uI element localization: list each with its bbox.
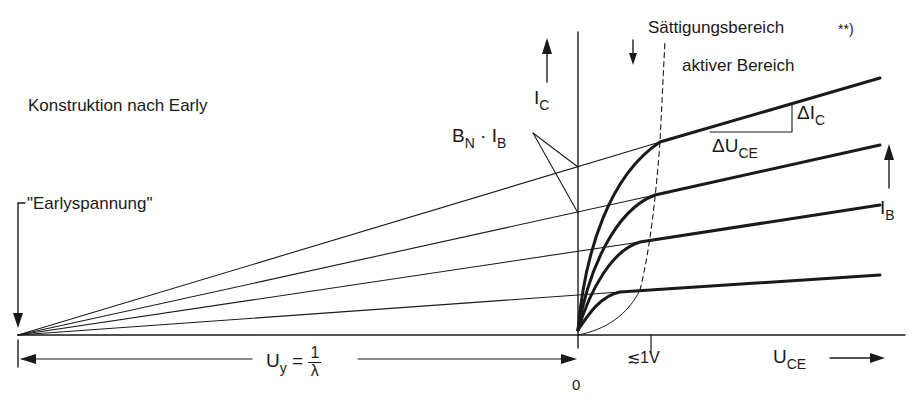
characteristic-curve-2 [578, 145, 880, 330]
ic-arrow-head [542, 38, 552, 54]
saturation-region-label: Sättigungsbereich [648, 19, 784, 36]
bn-label: B [452, 125, 465, 146]
early-line-1 [18, 142, 660, 335]
ic-axis-label-sub: C [539, 97, 549, 113]
bn-sub: N [465, 135, 475, 151]
uce-arrow-head [870, 353, 885, 363]
delta-uce-sub: CE [738, 145, 757, 161]
ib-parameter-label: IB [880, 198, 895, 217]
uy-equals: = [287, 350, 309, 371]
delta-uce-main: ΔU [712, 135, 738, 156]
uy-numerator: 1 [308, 345, 321, 363]
early-line-2 [18, 195, 655, 335]
uy-arrow-right-head [561, 354, 577, 364]
early-voltage-label: "Earlyspannung" [27, 195, 152, 212]
ib-parameter-sub: B [885, 207, 894, 223]
early-line-3 [18, 242, 640, 335]
uy-main: U [266, 350, 280, 371]
early-bracket [18, 203, 25, 315]
saturation-voltage-label: ≲1V [627, 350, 660, 366]
footnote-marker: **) [838, 22, 854, 36]
early-line-4 [18, 292, 620, 335]
bn-ib-leader-2 [533, 133, 578, 213]
delta-triangle [710, 105, 792, 132]
uy-sub: y [280, 360, 287, 376]
bn-ib-label: BN · IB [452, 126, 506, 145]
origin-label: 0 [572, 377, 580, 392]
active-region-label: aktiver Bereich [682, 57, 794, 74]
delta-ic-main: ΔI [797, 102, 815, 123]
ib-sub: B [497, 135, 506, 151]
uce-axis-label: UCE [773, 347, 806, 366]
uy-formula: Uy = 1λ [266, 345, 321, 380]
uy-arrow-left-head [20, 354, 36, 364]
bn-ib-leader-1 [533, 133, 578, 167]
early-arrow-head [13, 313, 23, 328]
ic-axis-label: IC [534, 88, 549, 107]
characteristic-curve-4 [578, 275, 880, 330]
uy-denominator: λ [308, 363, 321, 380]
uy-fraction: 1λ [308, 345, 321, 380]
delta-ic-sub: C [815, 112, 825, 128]
saturation-arrow-head [629, 53, 637, 65]
ib-arrow-head [884, 144, 894, 160]
uce-sub: CE [787, 356, 806, 372]
delta-uce-label: ΔUCE [712, 136, 758, 155]
ib-label: · I [475, 125, 497, 146]
delta-ic-label: ΔIC [797, 103, 825, 122]
uce-main: U [773, 346, 787, 367]
construction-title: Konstruktion nach Early [28, 97, 208, 114]
saturation-dashed-line [640, 40, 665, 290]
characteristic-curve-3 [578, 205, 880, 330]
